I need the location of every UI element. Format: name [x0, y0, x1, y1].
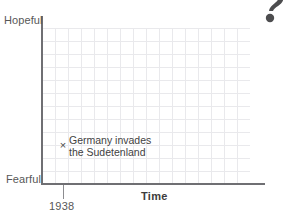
x-axis-tick-label-1938: 1938: [49, 200, 74, 212]
x-axis-title: Time: [141, 190, 168, 202]
x-axis-line: [41, 183, 265, 185]
plot-grid-area: [42, 28, 250, 183]
data-point-marker-icon: ×: [58, 140, 68, 150]
data-point-annotation: Germany invades the Sudetenland: [69, 135, 151, 158]
y-axis-low-label: Fearful: [6, 173, 41, 185]
x-axis-tick-1938: [63, 185, 64, 199]
mood-over-time-chart: Hopeful Fearful 1938 Time × Germany inva…: [0, 0, 283, 222]
question-mark-icon: [255, 0, 283, 30]
y-axis-line: [41, 16, 43, 184]
annotation-line-2: the Sudetenland: [69, 147, 151, 159]
y-axis-high-label: Hopeful: [4, 14, 43, 26]
annotation-line-1: Germany invades: [69, 135, 151, 147]
